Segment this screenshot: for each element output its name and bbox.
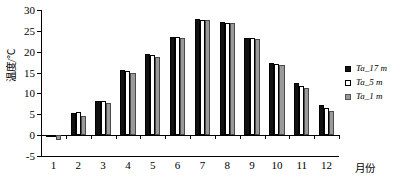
x-tick-mark [265, 135, 266, 139]
x-tick-label: 1 [51, 160, 57, 171]
x-tick-mark [41, 135, 42, 139]
y-tick-mark [37, 114, 41, 115]
gray-square-marker [345, 94, 351, 100]
x-tick-mark [339, 135, 340, 139]
x-axis-title: 月份 [355, 160, 375, 175]
y-tick-mark [37, 73, 41, 74]
y-tick-label: 15 [24, 67, 35, 78]
x-tick-label: 6 [175, 160, 181, 171]
x-tick-label: 2 [76, 160, 82, 171]
x-tick-label: 7 [200, 160, 206, 171]
y-tick-label: -5 [26, 151, 35, 162]
y-tick-mark [37, 156, 41, 157]
chart-legend: Ta_17 mTa_5 mTa_1 m [345, 62, 387, 104]
bar [329, 111, 334, 136]
x-tick-label: 4 [125, 160, 131, 171]
bar [130, 73, 135, 135]
y-tick-mark [37, 52, 41, 53]
x-tick-label: 5 [150, 160, 156, 171]
legend-item-label: Ta_5 m [356, 78, 382, 87]
x-tick-label: 12 [321, 160, 332, 171]
legend-item[interactable]: Ta_5 m [345, 76, 387, 89]
x-tick-label: 3 [100, 160, 106, 171]
y-tick-label: 10 [24, 88, 35, 99]
y-tick-mark [37, 93, 41, 94]
x-tick-label: 8 [225, 160, 231, 171]
bar [56, 135, 61, 140]
x-tick-mark [66, 135, 67, 139]
x-axis-baseline [41, 156, 339, 157]
bar [205, 20, 210, 135]
x-tick-mark [140, 135, 141, 139]
x-tick-mark [215, 135, 216, 139]
bar [155, 57, 160, 135]
x-tick-label: 11 [296, 160, 307, 171]
bar [304, 88, 309, 135]
x-tick-mark [314, 135, 315, 139]
y-tick-mark [37, 10, 41, 11]
bar [230, 23, 235, 135]
legend-item-label: Ta_17 m [356, 64, 387, 73]
x-tick-label: 10 [271, 160, 282, 171]
y-tick-label: 30 [24, 5, 35, 16]
x-tick-mark [91, 135, 92, 139]
legend-item[interactable]: Ta_17 m [345, 62, 387, 75]
x-tick-mark [289, 135, 290, 139]
bar-chart: 温度/℃ -5051015202530 123456789101112 月份 T… [0, 0, 408, 191]
x-tick-mark [116, 135, 117, 139]
plot-area: -5051015202530 123456789101112 [41, 10, 339, 156]
y-tick-mark [37, 31, 41, 32]
y-tick-label: 25 [24, 25, 35, 36]
x-tick-mark [240, 135, 241, 139]
x-tick-label: 9 [249, 160, 255, 171]
hollow-square-marker [345, 80, 351, 86]
bar [180, 38, 185, 135]
y-axis-title: 温度/℃ [3, 34, 18, 98]
x-tick-mark [190, 135, 191, 139]
bar [81, 116, 86, 136]
filled-square-marker [345, 66, 351, 72]
bar [279, 65, 284, 135]
bar [255, 39, 260, 135]
x-tick-mark [165, 135, 166, 139]
legend-item-label: Ta_1 m [356, 92, 382, 101]
bar [106, 103, 111, 135]
y-tick-label: 0 [30, 130, 36, 141]
y-tick-label: 5 [30, 109, 36, 120]
legend-item[interactable]: Ta_1 m [345, 90, 387, 103]
y-tick-label: 20 [24, 46, 35, 57]
